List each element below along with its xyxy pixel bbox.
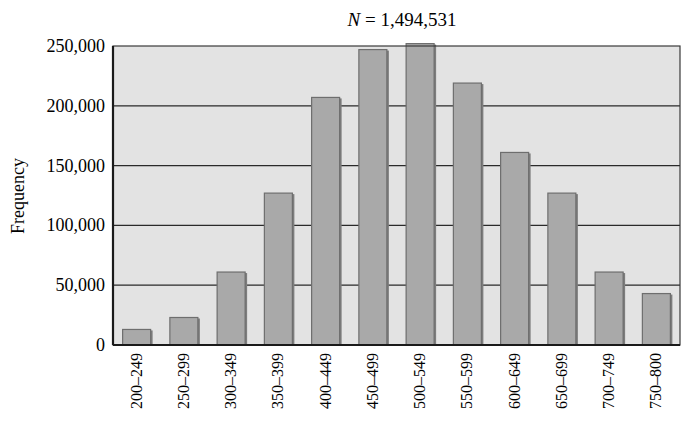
y-axis-label: Frequency xyxy=(8,158,28,234)
x-tick-label: 200–249 xyxy=(128,353,145,409)
bar-250–299 xyxy=(170,317,200,345)
title-value: = 1,494,531 xyxy=(360,9,456,30)
x-tick-label: 250–299 xyxy=(175,353,192,409)
bar-650–699 xyxy=(548,193,578,345)
y-tick-label: 200,000 xyxy=(47,96,106,116)
x-tick-label: 350–399 xyxy=(269,353,286,409)
bar-200–249 xyxy=(123,329,153,345)
y-tick-label: 150,000 xyxy=(47,156,106,176)
bar-700–749 xyxy=(595,272,625,345)
bar-600–649 xyxy=(501,152,531,345)
x-tick-labels: 200–249250–299300–349350–399400–449450–4… xyxy=(128,353,665,409)
bar-450–499 xyxy=(359,50,389,345)
chart-title: N = 1,494,531 xyxy=(347,9,457,30)
bar-500–549 xyxy=(406,44,436,345)
y-tick-label: 50,000 xyxy=(56,275,106,295)
x-tick-label: 600–649 xyxy=(506,353,523,409)
x-tick-label: 500–549 xyxy=(411,353,428,409)
bar-400–449 xyxy=(312,97,342,345)
x-tick-label: 700–749 xyxy=(600,353,617,409)
x-tick-label: 400–449 xyxy=(317,353,334,409)
y-tick-label: 0 xyxy=(96,335,105,355)
y-tick-labels: 050,000100,000150,000200,000250,000 xyxy=(47,36,106,355)
bar-550–599 xyxy=(453,83,483,345)
y-tick-label: 250,000 xyxy=(47,36,106,56)
x-tick-label: 300–349 xyxy=(222,353,239,409)
bar-750–800 xyxy=(642,294,672,345)
x-tick-label: 650–699 xyxy=(553,353,570,409)
x-tick-label: 450–499 xyxy=(364,353,381,409)
bar-300–349 xyxy=(217,272,247,345)
x-tick-label: 750–800 xyxy=(647,353,664,409)
bar-350–399 xyxy=(264,193,294,345)
x-tick-label: 550–599 xyxy=(458,353,475,409)
y-tick-label: 100,000 xyxy=(47,215,106,235)
histogram-chart: N = 1,494,531 050,000100,000150,000200,0… xyxy=(0,0,691,434)
